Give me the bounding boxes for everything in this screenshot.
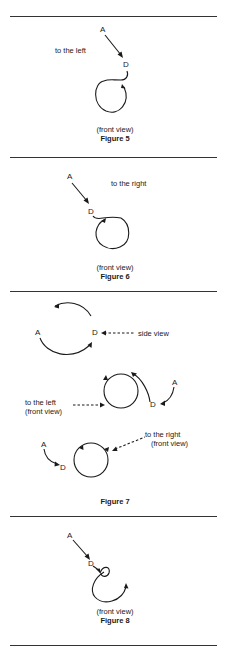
figure-5-point-a: A bbox=[100, 25, 105, 34]
figure-7-side-view-label: side view bbox=[138, 329, 169, 338]
figure-6-drawing bbox=[72, 183, 129, 249]
figure-6-caption: (front view) bbox=[0, 263, 230, 272]
figure-6-point-a: A bbox=[67, 172, 72, 181]
figure-7-side-view-drawing bbox=[40, 303, 134, 355]
figure-5-caption: (front view) bbox=[0, 125, 230, 134]
figure-7-title: Figure 7 bbox=[0, 497, 230, 506]
figure-7-side-point-a: A bbox=[35, 328, 40, 337]
figure-7-left-point-a: A bbox=[172, 378, 177, 387]
figure-6-direction-label: to the right bbox=[111, 179, 146, 188]
figure-5-title: Figure 5 bbox=[0, 134, 230, 143]
figure-5-point-d: D bbox=[123, 60, 129, 69]
figure-7-left-view-drawing bbox=[73, 372, 174, 408]
figure-8-caption: (front view) bbox=[0, 607, 230, 616]
figure-8-point-d: D bbox=[88, 559, 94, 568]
figure-7-left-point-d: D bbox=[150, 400, 156, 409]
figure-8-drawing bbox=[73, 540, 129, 602]
figure-7-right-label-line1: to the right bbox=[145, 430, 180, 439]
figure-5-drawing bbox=[96, 35, 128, 112]
figure-6-point-d: D bbox=[88, 207, 94, 216]
figure-7-side-point-d: D bbox=[92, 328, 98, 337]
figure-7-left-label-line1: to the left bbox=[25, 398, 56, 407]
figure-5-direction-label: to the left bbox=[55, 46, 86, 55]
figure-8-title: Figure 8 bbox=[0, 616, 230, 625]
figure-6-title: Figure 6 bbox=[0, 272, 230, 281]
figure-7-left-label-line2: (front view) bbox=[25, 407, 62, 416]
figure-7-right-point-a: A bbox=[41, 440, 46, 449]
diagram-artwork bbox=[0, 0, 230, 648]
figure-8-point-a: A bbox=[67, 531, 72, 540]
figure-7-right-point-d: D bbox=[60, 463, 66, 472]
figure-7-right-label-line2: (front view) bbox=[151, 439, 188, 448]
